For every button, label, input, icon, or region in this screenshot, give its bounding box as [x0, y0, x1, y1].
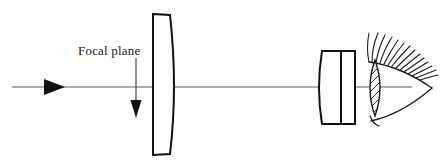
- diagram-canvas: Focal plane: [0, 0, 446, 167]
- objective-lens: [153, 14, 174, 155]
- eye-lens-outline: [370, 60, 380, 116]
- focal-plane-label: Focal plane: [78, 43, 141, 58]
- focal-plane-arrowhead: [131, 100, 142, 118]
- eyepiece-element-front: [319, 51, 341, 124]
- input-ray-arrowhead: [44, 79, 65, 95]
- eyepiece-element-rear: [341, 51, 355, 124]
- optical-diagram-figure: Focal plane: [0, 0, 446, 167]
